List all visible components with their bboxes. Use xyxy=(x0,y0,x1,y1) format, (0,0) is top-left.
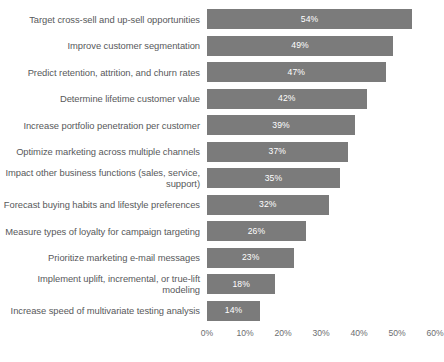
bar-track: 14% xyxy=(207,298,435,325)
category-label: Optimize marketing across multiple chann… xyxy=(0,146,207,157)
bar-value-label: 14% xyxy=(225,306,243,315)
bar-row: Increase speed of multivariate testing a… xyxy=(0,298,435,325)
bar-track: 42% xyxy=(207,86,435,113)
bar: 47% xyxy=(207,62,386,82)
bar: 14% xyxy=(207,301,260,321)
bar-row: Optimize marketing across multiple chann… xyxy=(0,139,435,166)
bar-track: 47% xyxy=(207,59,435,86)
bar-track: 26% xyxy=(207,218,435,245)
bar-value-label: 23% xyxy=(242,253,260,262)
axis-tick-label: 30% xyxy=(312,328,329,338)
bar: 18% xyxy=(207,274,275,294)
axis-tick-label: 10% xyxy=(236,328,253,338)
bar-value-label: 18% xyxy=(232,280,250,289)
bar-track: 23% xyxy=(207,245,435,272)
bar-row: Impact other business functions (sales, … xyxy=(0,165,435,192)
bar-track: 37% xyxy=(207,139,435,166)
axis-tick-label: 0% xyxy=(201,328,213,338)
category-label: Impact other business functions (sales, … xyxy=(0,167,207,190)
bar: 39% xyxy=(207,115,355,135)
bar-value-label: 49% xyxy=(291,41,309,50)
bar-row: Determine lifetime customer value42% xyxy=(0,86,435,113)
bar-row: Measure types of loyalty for campaign ta… xyxy=(0,218,435,245)
chart-plot-area: Target cross-sell and up-sell opportunit… xyxy=(0,6,435,324)
category-label: Predict retention, attrition, and churn … xyxy=(0,67,207,78)
bar-track: 32% xyxy=(207,192,435,219)
bar: 37% xyxy=(207,142,348,162)
category-label: Increase portfolio penetration per custo… xyxy=(0,120,207,131)
axis-tick-label: 20% xyxy=(274,328,291,338)
bar: 23% xyxy=(207,248,294,268)
axis-tick-label: 60% xyxy=(426,328,443,338)
bar-row: Improve customer segmentation49% xyxy=(0,33,435,60)
bar-value-label: 32% xyxy=(259,200,277,209)
bar-row: Increase portfolio penetration per custo… xyxy=(0,112,435,139)
bar-value-label: 26% xyxy=(248,227,266,236)
bar-value-label: 47% xyxy=(288,68,306,77)
bar-row: Target cross-sell and up-sell opportunit… xyxy=(0,6,435,33)
axis-tick-label: 40% xyxy=(350,328,367,338)
axis-tick-label: 50% xyxy=(388,328,405,338)
bar: 49% xyxy=(207,36,393,56)
bar-value-label: 35% xyxy=(265,174,283,183)
bar-row: Forecast buying habits and lifestyle pre… xyxy=(0,192,435,219)
bar-row: Predict retention, attrition, and churn … xyxy=(0,59,435,86)
bar-track: 39% xyxy=(207,112,435,139)
bar-value-label: 39% xyxy=(272,121,290,130)
bar-track: 18% xyxy=(207,271,435,298)
bar: 35% xyxy=(207,168,340,188)
bar-value-label: 54% xyxy=(301,15,319,24)
bar-value-label: 37% xyxy=(269,147,287,156)
bar: 26% xyxy=(207,221,306,241)
bar-track: 35% xyxy=(207,165,435,192)
bar: 42% xyxy=(207,89,367,109)
bar-row: Implement uplift, incremental, or true-l… xyxy=(0,271,435,298)
category-label: Determine lifetime customer value xyxy=(0,93,207,104)
category-label: Forecast buying habits and lifestyle pre… xyxy=(0,199,207,210)
category-label: Increase speed of multivariate testing a… xyxy=(0,305,207,316)
bar-value-label: 42% xyxy=(278,94,296,103)
category-label: Implement uplift, incremental, or true-l… xyxy=(0,273,207,296)
x-axis: 0%10%20%30%40%50%60% xyxy=(207,328,435,344)
category-label: Target cross-sell and up-sell opportunit… xyxy=(0,14,207,25)
bar-row: Prioritize marketing e-mail messages23% xyxy=(0,245,435,272)
bar: 32% xyxy=(207,195,329,215)
bar-track: 54% xyxy=(207,6,435,33)
bar-track: 49% xyxy=(207,33,435,60)
category-label: Prioritize marketing e-mail messages xyxy=(0,252,207,263)
bar: 54% xyxy=(207,9,412,29)
category-label: Measure types of loyalty for campaign ta… xyxy=(0,226,207,237)
category-label: Improve customer segmentation xyxy=(0,40,207,51)
